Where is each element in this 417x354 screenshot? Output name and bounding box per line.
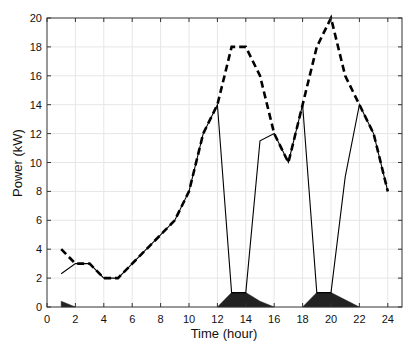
y-tick-label: 10 [30,157,42,169]
x-tick-label: 2 [72,313,78,325]
y-tick-label: 14 [30,99,42,111]
x-tick-label: 6 [129,313,135,325]
x-tick-label: 12 [211,313,223,325]
y-tick-label: 6 [36,214,42,226]
x-tick-label: 22 [353,313,365,325]
y-tick-label: 18 [30,41,42,53]
dashed-line [61,18,388,278]
area-series [61,293,359,307]
y-tick-label: 8 [36,185,42,197]
x-tick-label: 8 [158,313,164,325]
x-tick-label: 16 [268,313,280,325]
filled-area [61,301,75,307]
grid [47,18,402,307]
x-tick-label: 24 [382,313,394,325]
x-tick-label: 20 [325,313,337,325]
y-tick-label: 20 [30,12,42,24]
x-tick-label: 10 [183,313,195,325]
y-tick-label: 0 [36,301,42,313]
y-tick-label: 12 [30,128,42,140]
x-tick-label: 18 [296,313,308,325]
y-axis-label: Power (kW) [10,129,25,197]
y-tick-label: 16 [30,70,42,82]
solid-line [61,105,388,293]
x-ticks: 024681012141618202224 [44,18,394,325]
y-tick-label: 4 [36,243,42,255]
x-axis-label: Time (hour) [191,326,258,341]
line-series [61,18,388,293]
x-tick-label: 14 [240,313,252,325]
x-tick-label: 0 [44,313,50,325]
power-chart: 024681012141618202224 02468101214161820 … [0,0,417,354]
x-tick-label: 4 [101,313,107,325]
y-tick-label: 2 [36,272,42,284]
